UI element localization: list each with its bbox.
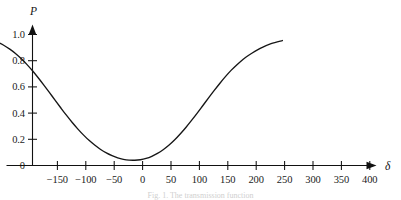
y-tick-label: 0.2 [12, 134, 25, 145]
data-series-line [0, 34, 282, 160]
line-chart: 0 0.2 0.4 0.6 0.8 1.0 P [0, 0, 401, 200]
x-axis-group: −150 −100 −50 0 50 100 150 200 250 300 3… [7, 160, 392, 186]
x-tick-label: −50 [106, 174, 122, 185]
x-tick-label: 200 [248, 174, 263, 185]
x-axis-title: δ [385, 160, 391, 172]
x-tick-label: 300 [305, 174, 320, 185]
x-tick-label: −150 [47, 174, 68, 185]
x-tick-label: 350 [334, 174, 349, 185]
figure-container: 0 0.2 0.4 0.6 0.8 1.0 P [0, 0, 401, 200]
x-tick-label: 150 [220, 174, 235, 185]
x-tick-label: 0 [140, 174, 145, 185]
figure-caption: Fig. 1. The transmission function [0, 191, 401, 200]
x-tick-label: 50 [166, 174, 176, 185]
y-axis-tick-labels: 0 0.2 0.4 0.6 0.8 1.0 [12, 29, 26, 171]
x-tick-label: −100 [75, 174, 96, 185]
x-tick-label: 400 [362, 174, 377, 185]
y-axis-title: P [29, 5, 37, 17]
y-axis-arrow-icon [29, 25, 36, 35]
x-axis-tick-labels: −150 −100 −50 0 50 100 150 200 250 300 3… [47, 174, 378, 185]
y-tick-label: 0.6 [12, 81, 25, 92]
x-axis-arrow-icon [367, 162, 377, 169]
y-axis-group: 0 0.2 0.4 0.6 0.8 1.0 P [12, 5, 37, 172]
y-tick-label: 0.4 [12, 108, 26, 119]
x-tick-label: 100 [192, 174, 207, 185]
y-tick-label: 1.0 [12, 29, 25, 40]
x-tick-label: 250 [277, 174, 292, 185]
